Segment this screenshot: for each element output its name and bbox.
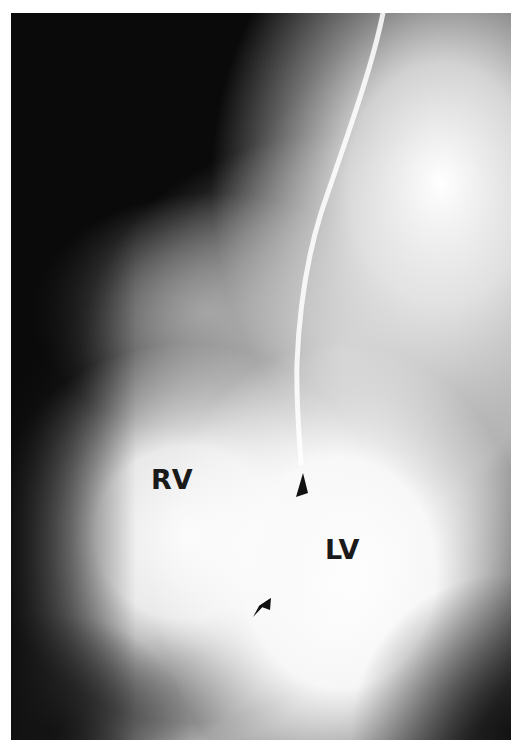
lv-label: LV <box>325 534 359 565</box>
catheter <box>11 13 511 740</box>
rv-label: RV <box>151 464 193 495</box>
arrowhead-icon <box>294 473 310 501</box>
angiogram-image: RV LV <box>11 13 511 740</box>
arrowhead-icon <box>251 596 273 618</box>
